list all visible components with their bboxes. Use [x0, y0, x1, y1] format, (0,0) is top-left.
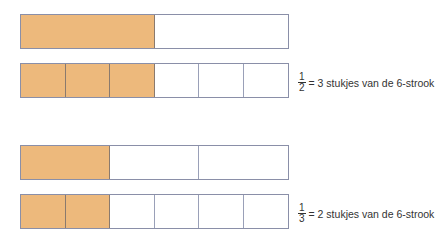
label-half: 1 2 = 3 stukjes van de 6-strook: [298, 72, 434, 93]
strip-segment-filled: [110, 64, 155, 97]
half-strip: [20, 14, 289, 49]
strip-segment-filled: [21, 15, 155, 48]
strip-segment-empty: [155, 15, 289, 48]
strip-segment-empty: [155, 64, 200, 97]
strip-segment-empty: [244, 195, 289, 228]
strip-segment-filled: [21, 195, 66, 228]
six-strip-1: [20, 63, 289, 98]
six-strip-2: [20, 194, 289, 229]
strip-segment-filled: [66, 195, 111, 228]
denominator: 3: [299, 214, 305, 224]
fraction-half: 1 2: [298, 72, 306, 93]
strip-segment-empty: [199, 195, 244, 228]
label-third: 1 3 = 2 stukjes van de 6-strook: [298, 203, 434, 224]
label-text: = 2 stukjes van de 6-strook: [309, 208, 435, 220]
denominator: 2: [299, 83, 305, 93]
fraction-third: 1 3: [298, 203, 306, 224]
strip-segment-empty: [199, 146, 288, 179]
strip-segment-empty: [110, 195, 155, 228]
label-text: = 3 stukjes van de 6-strook: [309, 77, 435, 89]
strip-segment-filled: [66, 64, 111, 97]
strip-segment-empty: [110, 146, 199, 179]
strip-segment-empty: [244, 64, 289, 97]
strip-segment-filled: [21, 64, 66, 97]
strip-segment-filled: [21, 146, 110, 179]
strip-segment-empty: [199, 64, 244, 97]
third-strip: [20, 145, 289, 180]
strip-segment-empty: [155, 195, 200, 228]
